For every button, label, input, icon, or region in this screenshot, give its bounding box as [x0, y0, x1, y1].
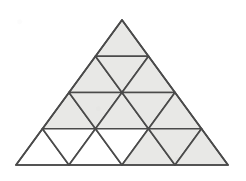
small-triangle-up-r1c1: [96, 20, 149, 56]
figure-canvas: [0, 0, 246, 181]
subdivided-triangle-figure: [0, 0, 246, 181]
